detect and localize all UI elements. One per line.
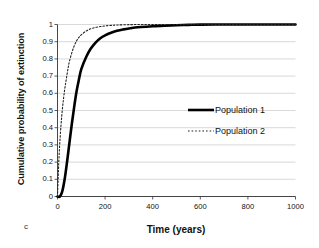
x-tick-label: 600 xyxy=(194,203,207,211)
x-tick-label: 0 xyxy=(55,203,59,211)
x-axis-tick-labels: 02004006008001000 xyxy=(0,0,319,248)
legend-label-population-2: Population 2 xyxy=(215,127,265,136)
figure-panel-c: Cumulative probability of extinction Tim… xyxy=(0,0,319,248)
x-tick-label: 800 xyxy=(242,203,255,211)
x-tick-label: 400 xyxy=(146,203,159,211)
legend-label-population-1: Population 1 xyxy=(215,106,265,115)
x-tick-label: 200 xyxy=(99,203,112,211)
x-tick-label: 1000 xyxy=(287,203,304,211)
